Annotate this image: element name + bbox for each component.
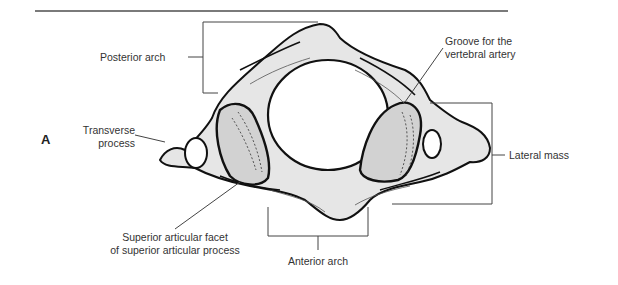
- label-anterior-arch: Anterior arch: [268, 255, 368, 268]
- label-groove-line1: Groove for the: [445, 35, 516, 48]
- label-facet-line2: of superior articular process: [110, 244, 240, 257]
- label-posterior-arch: Posterior arch: [100, 51, 165, 64]
- label-transverse-line1: Transverse: [65, 124, 135, 137]
- label-transverse-process: Transverse process: [65, 124, 135, 149]
- label-facet-line1: Superior articular facet: [110, 231, 240, 244]
- superior-facet-leader: [175, 182, 240, 229]
- transverse-process-leader: [135, 135, 165, 142]
- left-transverse-foramen: [185, 138, 207, 168]
- label-superior-articular-facet: Superior articular facet of superior art…: [110, 231, 240, 256]
- atlas-bone: [160, 24, 490, 220]
- label-groove-vertebral-artery: Groove for the vertebral artery: [445, 35, 516, 60]
- label-lateral-mass: Lateral mass: [509, 149, 569, 162]
- right-transverse-foramen: [423, 130, 441, 158]
- label-groove-line2: vertebral artery: [445, 48, 516, 61]
- label-transverse-line2: process: [65, 137, 135, 150]
